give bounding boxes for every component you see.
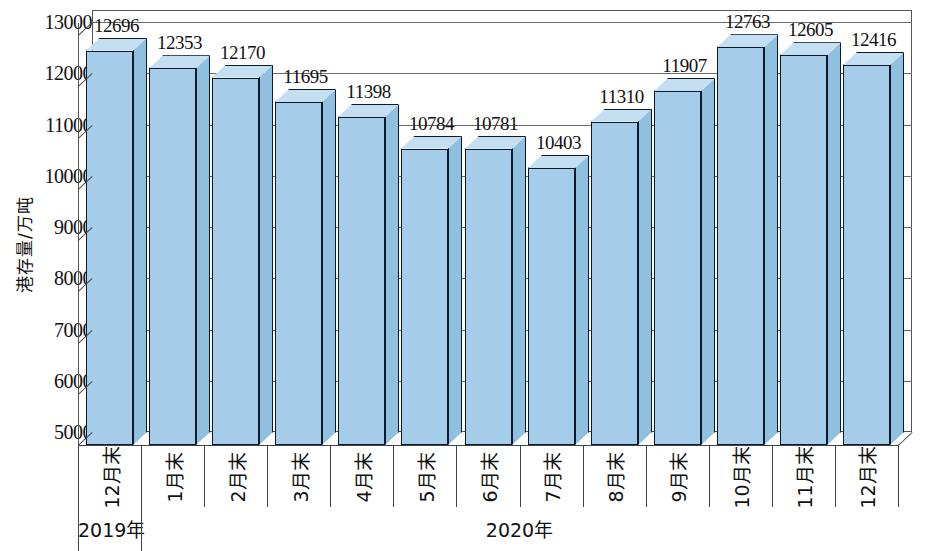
x-tick-label: 11月末 (790, 443, 817, 513)
bar-front-face (465, 149, 512, 445)
x-tick-label: 5月末 (411, 443, 438, 513)
x-tick-label: 3月末 (285, 443, 312, 513)
bar-value-label: 11310 (582, 87, 662, 106)
bar-side-face (322, 89, 336, 445)
bar-front-face (717, 47, 764, 445)
x-axis-separator (456, 445, 457, 507)
bar (843, 52, 904, 445)
bar (338, 104, 399, 445)
x-axis-separator (646, 445, 647, 507)
x-tick-label: 9月末 (664, 443, 691, 513)
bar-front-face (275, 102, 322, 445)
x-axis-separator (520, 445, 521, 507)
bar-front-face (338, 117, 385, 445)
x-axis-group-label: 2019年 (78, 515, 141, 542)
bar-value-label: 10403 (519, 133, 599, 152)
x-tick-label: 2月末 (222, 443, 249, 513)
x-tick-label: 1月末 (159, 443, 186, 513)
bar-front-face (149, 68, 196, 445)
bar-value-label: 11907 (645, 56, 725, 75)
bar (401, 136, 462, 445)
x-axis-separator (78, 445, 79, 507)
bar-side-face (827, 42, 841, 445)
y-tick-label: 7000 (6, 320, 92, 340)
x-tick-label: 12月末 (96, 443, 123, 513)
bar (212, 65, 273, 445)
bar-value-label: 10781 (456, 114, 536, 133)
bar-front-face (843, 65, 890, 445)
x-tick-label: 12月末 (853, 443, 880, 513)
bar-side-face (638, 109, 652, 445)
x-axis-separator (772, 445, 773, 507)
bar-front-face (654, 91, 701, 445)
bar-value-label: 12170 (203, 43, 283, 62)
bar-value-label: 12416 (834, 30, 914, 49)
x-tick-label: 8月末 (601, 443, 628, 513)
y-tick-label: 11000 (6, 115, 92, 135)
bar-value-label: 11398 (329, 82, 409, 101)
bar (780, 42, 841, 445)
bar-side-face (890, 52, 904, 445)
bar-side-face (575, 155, 589, 445)
bar-side-face (133, 38, 147, 445)
bar-front-face (86, 51, 133, 445)
x-tick-label: 6月末 (475, 443, 502, 513)
bar (465, 136, 526, 445)
bar-side-face (448, 136, 462, 445)
y-tick-label: 9000 (6, 217, 92, 237)
y-tick-label: 5000 (6, 422, 92, 442)
bar (275, 89, 336, 445)
bar-side-face (196, 55, 210, 445)
x-axis-separator (204, 445, 205, 507)
bar-side-face (259, 65, 273, 445)
x-axis-separator (583, 445, 584, 507)
x-tick-label: 10月末 (727, 443, 754, 513)
x-axis-separator (141, 445, 142, 507)
y-tick-label: 6000 (6, 371, 92, 391)
bar (149, 55, 210, 445)
bar-front-face (780, 55, 827, 445)
y-tick-label: 12000 (6, 63, 92, 83)
bar-front-face (591, 122, 638, 445)
bar-side-face (764, 34, 778, 445)
bar-side-face (512, 136, 526, 445)
x-axis-separator (330, 445, 331, 507)
x-axis-group-divider (78, 507, 79, 551)
bar-front-face (401, 149, 448, 445)
x-axis-separator (835, 445, 836, 507)
x-axis-separator (393, 445, 394, 507)
bar-side-face (385, 104, 399, 445)
bar (528, 155, 589, 445)
bar (717, 34, 778, 445)
y-tick-label: 8000 (6, 268, 92, 288)
x-tick-label: 4月末 (348, 443, 375, 513)
x-axis-separator (898, 445, 899, 507)
bar (591, 109, 652, 445)
x-axis-separator (267, 445, 268, 507)
bar-front-face (528, 168, 575, 445)
y-tick-label: 10000 (6, 166, 92, 186)
bar (654, 78, 715, 445)
bar (86, 38, 147, 445)
bar-side-face (701, 78, 715, 445)
x-axis-separator (709, 445, 710, 507)
bar-front-face (212, 78, 259, 445)
x-axis-group-label: 2020年 (141, 515, 898, 542)
x-tick-label: 7月末 (538, 443, 565, 513)
